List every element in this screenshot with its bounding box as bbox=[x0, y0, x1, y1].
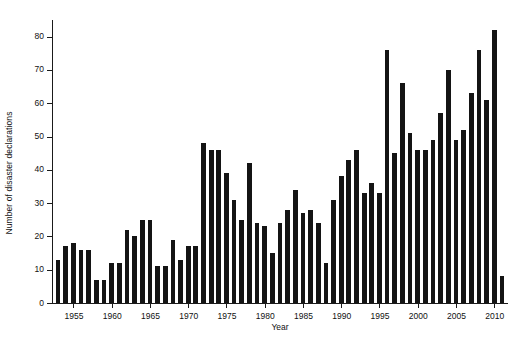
x-tick-label: 1970 bbox=[179, 310, 198, 322]
bar bbox=[369, 183, 374, 303]
y-tick-label: 70 bbox=[35, 63, 44, 75]
bar bbox=[132, 236, 137, 303]
x-tick-label: 2010 bbox=[485, 310, 504, 322]
bar bbox=[102, 280, 107, 303]
bar bbox=[56, 260, 61, 303]
bar bbox=[362, 193, 367, 303]
x-tick-label: 1960 bbox=[103, 310, 122, 322]
y-tick: 50 bbox=[47, 137, 52, 138]
bar bbox=[400, 83, 405, 303]
y-tick: 40 bbox=[47, 170, 52, 171]
bar bbox=[239, 220, 244, 303]
x-tick: 1965 bbox=[150, 304, 151, 308]
y-tick-label: 30 bbox=[35, 197, 44, 209]
y-tick-label: 80 bbox=[35, 30, 44, 42]
y-tick-label: 20 bbox=[35, 230, 44, 242]
bar bbox=[125, 230, 130, 303]
bar bbox=[278, 223, 283, 303]
y-tick-label: 40 bbox=[35, 163, 44, 175]
bar bbox=[262, 226, 267, 303]
y-tick: 80 bbox=[47, 37, 52, 38]
y-tick-label: 0 bbox=[39, 297, 44, 309]
y-tick: 60 bbox=[47, 103, 52, 104]
bar bbox=[148, 220, 153, 303]
y-tick: 30 bbox=[47, 203, 52, 204]
bar bbox=[438, 113, 443, 303]
x-tick-label: 1955 bbox=[64, 310, 83, 322]
x-tick-label: 1975 bbox=[217, 310, 236, 322]
bar bbox=[79, 250, 84, 303]
y-tick: 10 bbox=[47, 270, 52, 271]
y-tick-label: 10 bbox=[35, 263, 44, 275]
x-tick-label: 1990 bbox=[332, 310, 351, 322]
bar bbox=[423, 150, 428, 303]
x-tick-label: 1985 bbox=[294, 310, 313, 322]
bar bbox=[354, 150, 359, 303]
bar bbox=[71, 243, 76, 303]
bar bbox=[94, 280, 99, 303]
x-tick: 2005 bbox=[456, 304, 457, 308]
x-tick-label: 2000 bbox=[409, 310, 428, 322]
bar bbox=[201, 143, 206, 303]
bar bbox=[285, 210, 290, 303]
bar bbox=[500, 276, 505, 303]
bar bbox=[140, 220, 145, 303]
x-tick-label: 1980 bbox=[256, 310, 275, 322]
x-axis-label: Year bbox=[52, 322, 508, 332]
disaster-declarations-bar-chart: Number of disaster declarations 01020304… bbox=[0, 0, 520, 346]
bar bbox=[301, 213, 306, 303]
bar bbox=[339, 176, 344, 303]
bar bbox=[308, 210, 313, 303]
bar bbox=[331, 200, 336, 303]
x-tick-label: 1965 bbox=[141, 310, 160, 322]
x-tick-label: 1995 bbox=[370, 310, 389, 322]
bar bbox=[155, 266, 160, 303]
x-tick: 1960 bbox=[112, 304, 113, 308]
bar bbox=[109, 263, 114, 303]
x-tick: 1975 bbox=[226, 304, 227, 308]
bar bbox=[224, 173, 229, 303]
bar bbox=[232, 200, 237, 303]
bar bbox=[171, 240, 176, 303]
x-tick: 2000 bbox=[418, 304, 419, 308]
bar bbox=[484, 100, 489, 303]
bar bbox=[415, 150, 420, 303]
bar bbox=[454, 140, 459, 303]
bar bbox=[247, 163, 252, 303]
x-tick: 1970 bbox=[188, 304, 189, 308]
bar bbox=[186, 246, 191, 303]
bar bbox=[431, 140, 436, 303]
y-tick: 20 bbox=[47, 236, 52, 237]
bar bbox=[178, 260, 183, 303]
bar bbox=[392, 153, 397, 303]
y-axis-spine bbox=[52, 20, 53, 304]
y-tick-label: 60 bbox=[35, 97, 44, 109]
bar bbox=[324, 263, 329, 303]
bar bbox=[408, 133, 413, 303]
bar bbox=[446, 70, 451, 303]
bar bbox=[385, 50, 390, 303]
plot-area: 01020304050607080 1955196019651970197519… bbox=[52, 20, 508, 304]
bar bbox=[255, 223, 260, 303]
bar bbox=[293, 190, 298, 303]
x-tick: 2010 bbox=[494, 304, 495, 308]
bar bbox=[63, 246, 68, 303]
bar bbox=[377, 193, 382, 303]
x-axis-spine bbox=[52, 303, 508, 304]
x-tick: 1990 bbox=[341, 304, 342, 308]
bar bbox=[86, 250, 91, 303]
x-tick-label: 2005 bbox=[447, 310, 466, 322]
x-tick: 1980 bbox=[265, 304, 266, 308]
x-tick: 1995 bbox=[379, 304, 380, 308]
bar bbox=[461, 130, 466, 303]
bar bbox=[193, 246, 198, 303]
y-tick: 0 bbox=[47, 303, 52, 304]
x-tick: 1985 bbox=[303, 304, 304, 308]
bar bbox=[216, 150, 221, 303]
bar bbox=[209, 150, 214, 303]
bar bbox=[270, 253, 275, 303]
bar bbox=[316, 223, 321, 303]
y-axis-label: Number of disaster declarations bbox=[0, 0, 18, 346]
bar bbox=[477, 50, 482, 303]
bar bbox=[492, 30, 497, 303]
